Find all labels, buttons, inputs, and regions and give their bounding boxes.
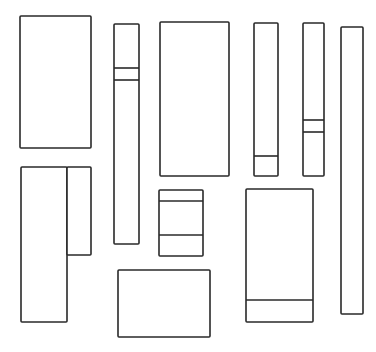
rect-7b-outline bbox=[67, 167, 91, 255]
rect-10-outline bbox=[246, 189, 313, 322]
rect-1 bbox=[20, 16, 91, 148]
rect-6-outline bbox=[341, 27, 363, 314]
rect-3-outline bbox=[160, 22, 229, 176]
rect-4 bbox=[254, 23, 278, 176]
rect-2 bbox=[114, 24, 139, 244]
rect-4-outline bbox=[254, 23, 278, 176]
rect-1-outline bbox=[20, 16, 91, 148]
rect-9-outline bbox=[118, 270, 210, 337]
rect-7a bbox=[21, 167, 67, 322]
rect-6 bbox=[341, 27, 363, 314]
rect-8-outline bbox=[159, 190, 203, 256]
rect-10 bbox=[246, 189, 313, 322]
rectangle-diagram bbox=[0, 0, 376, 352]
rect-5 bbox=[303, 23, 324, 176]
rect-9 bbox=[118, 270, 210, 337]
rect-5-outline bbox=[303, 23, 324, 176]
rect-3 bbox=[160, 22, 229, 176]
rect-8 bbox=[159, 190, 203, 256]
rect-7a-outline bbox=[21, 167, 67, 322]
rect-7b bbox=[67, 167, 91, 255]
rect-2-outline bbox=[114, 24, 139, 244]
